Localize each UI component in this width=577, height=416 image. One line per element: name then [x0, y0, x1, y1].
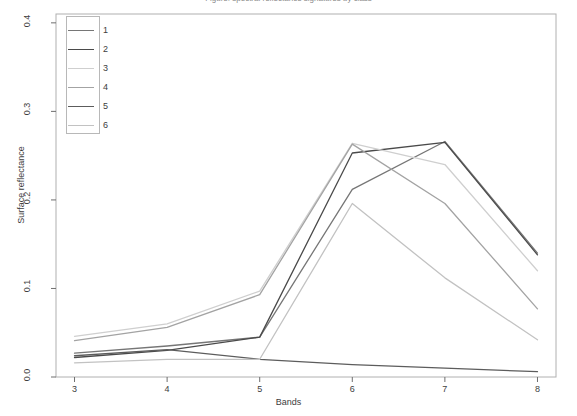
chart-figure: Figure: spectral reflectance signatures … [0, 0, 577, 416]
series-line-4 [75, 144, 538, 341]
y-tick-label: 0.0 [0, 370, 34, 380]
legend-item-3[interactable]: 3 [66, 62, 108, 74]
legend-swatch-icon [68, 30, 94, 31]
y-tick-label: 0.4 [0, 16, 34, 26]
y-tick-label: 0.1 [0, 281, 34, 291]
y-tick-label: 0.2 [0, 193, 34, 203]
legend-item-2[interactable]: 2 [66, 43, 108, 55]
legend-swatch-icon [68, 49, 94, 50]
legend-label: 4 [103, 82, 108, 92]
y-axis-label: Surface reflectance [16, 140, 26, 230]
legend-label: 3 [103, 63, 108, 73]
series-line-3 [75, 143, 538, 336]
legend-swatch-icon [68, 87, 94, 88]
x-tick-label: 8 [522, 384, 552, 394]
legend-item-4[interactable]: 4 [66, 81, 108, 93]
x-tick-label: 4 [152, 384, 182, 394]
axis-ticks [51, 23, 537, 382]
legend-swatch-icon [68, 106, 94, 107]
legend-swatch-icon [68, 125, 94, 126]
y-tick-label: 0.3 [0, 104, 34, 114]
legend-swatch-icon [68, 68, 94, 69]
x-tick-label: 5 [245, 384, 275, 394]
legend-item-1[interactable]: 1 [66, 24, 108, 36]
x-tick-label: 3 [60, 384, 90, 394]
legend-label: 1 [103, 25, 108, 35]
series-line-1 [75, 141, 538, 353]
legend-item-6[interactable]: 6 [66, 119, 108, 131]
legend-label: 2 [103, 44, 108, 54]
legend-label: 5 [103, 101, 108, 111]
data-series-group [75, 141, 538, 371]
legend-item-5[interactable]: 5 [66, 100, 108, 112]
plot-frame [56, 14, 556, 377]
x-tick-label: 7 [430, 384, 460, 394]
x-tick-label: 6 [337, 384, 367, 394]
series-line-2 [75, 142, 538, 357]
series-line-6 [75, 203, 538, 362]
legend-label: 6 [103, 120, 108, 130]
x-axis-label: Bands [0, 397, 577, 407]
